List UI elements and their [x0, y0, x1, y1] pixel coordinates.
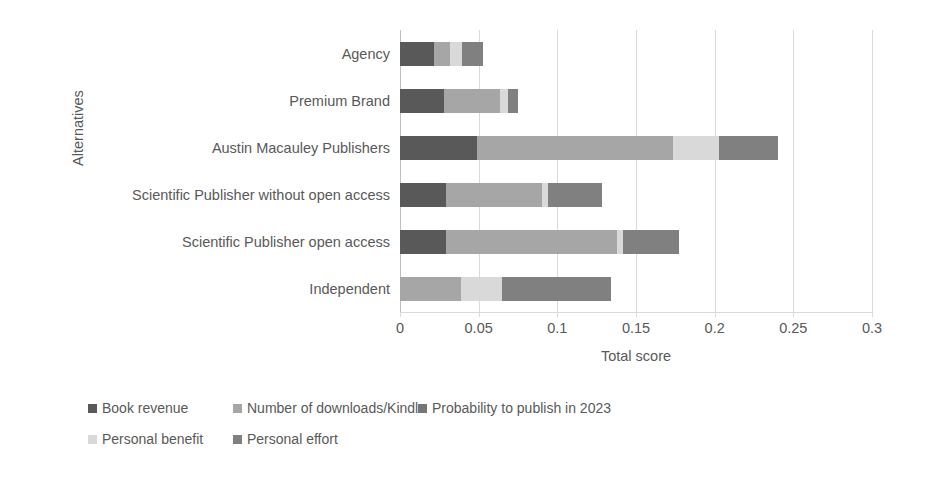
legend-item[interactable]: Number of downloads/Kindle — [233, 400, 426, 416]
category-row: Premium Brand — [400, 77, 872, 124]
x-axis-tick-label: 0 — [396, 320, 404, 336]
bar-segment[interactable] — [502, 277, 611, 301]
legend-swatch-icon — [233, 435, 242, 444]
legend-row: Personal benefitPersonal effort — [88, 431, 888, 457]
x-axis-tick — [715, 312, 716, 317]
bar-segment[interactable] — [400, 42, 434, 66]
plot-area: AgencyPremium BrandAustin Macauley Publi… — [400, 30, 872, 312]
bar-segment[interactable] — [462, 42, 482, 66]
x-axis-tick-label: 0.05 — [465, 320, 493, 336]
bar-segment[interactable] — [400, 183, 446, 207]
stacked-bar[interactable] — [400, 42, 483, 66]
x-axis-tick — [400, 312, 401, 317]
stacked-bar[interactable] — [400, 230, 679, 254]
bar-segment[interactable] — [400, 136, 477, 160]
bar-segment[interactable] — [450, 42, 462, 66]
legend-label: Book revenue — [102, 400, 188, 416]
legend-swatch-icon — [88, 435, 97, 444]
y-axis-tick-label: Independent — [309, 281, 390, 297]
x-axis-title: Total score — [400, 348, 872, 364]
bar-segment[interactable] — [461, 277, 502, 301]
y-axis-tick-label: Agency — [342, 46, 390, 62]
x-axis-tick — [793, 312, 794, 317]
x-axis-tick-label: 0.15 — [622, 320, 650, 336]
x-axis-tick — [557, 312, 558, 317]
bar-segment[interactable] — [434, 42, 451, 66]
legend-label: Probability to publish in 2023 — [432, 400, 611, 416]
legend-label: Personal effort — [247, 431, 338, 447]
stacked-bar[interactable] — [400, 183, 602, 207]
y-axis-tick-label: Scientific Publisher open access — [182, 234, 390, 250]
category-row: Agency — [400, 30, 872, 77]
bar-segment[interactable] — [446, 183, 542, 207]
y-axis-tick-label: Scientific Publisher without open access — [132, 187, 390, 203]
legend-row: Book revenueNumber of downloads/KindlePr… — [88, 400, 888, 426]
bar-segment[interactable] — [446, 230, 617, 254]
bar-segment[interactable] — [400, 89, 444, 113]
y-axis-title: Alternatives — [70, 68, 86, 188]
x-axis-tick-label: 0.2 — [705, 320, 725, 336]
legend-label: Personal benefit — [102, 431, 203, 447]
bar-segment[interactable] — [623, 230, 679, 254]
bar-segment[interactable] — [548, 183, 602, 207]
stacked-bar[interactable] — [400, 277, 611, 301]
bar-segment[interactable] — [508, 89, 518, 113]
legend-item[interactable]: Personal benefit — [88, 431, 203, 447]
category-row: Independent — [400, 265, 872, 312]
x-axis-tick — [636, 312, 637, 317]
x-axis-tick-label: 0.3 — [862, 320, 882, 336]
x-axis-tick-label: 0.25 — [779, 320, 807, 336]
y-axis-tick-label: Austin Macauley Publishers — [212, 140, 390, 156]
stacked-bar-chart: Alternatives AgencyPremium BrandAustin M… — [0, 0, 934, 495]
bar-segment[interactable] — [477, 136, 673, 160]
bar-segment[interactable] — [673, 136, 719, 160]
legend-item[interactable]: Personal effort — [233, 431, 338, 447]
stacked-bar[interactable] — [400, 136, 778, 160]
bar-segment[interactable] — [500, 89, 508, 113]
legend-item[interactable]: Book revenue — [88, 400, 188, 416]
bar-segment[interactable] — [400, 230, 446, 254]
legend-label: Number of downloads/Kindle — [247, 400, 426, 416]
category-row: Scientific Publisher open access — [400, 218, 872, 265]
y-axis-tick-label: Premium Brand — [289, 93, 390, 109]
category-row: Austin Macauley Publishers — [400, 124, 872, 171]
gridline-0_3 — [872, 30, 873, 312]
x-axis-tick — [872, 312, 873, 317]
legend-swatch-icon — [233, 404, 242, 413]
x-axis-tick — [479, 312, 480, 317]
legend-swatch-icon — [418, 404, 427, 413]
stacked-bar[interactable] — [400, 89, 518, 113]
bar-segment[interactable] — [444, 89, 500, 113]
legend-item[interactable]: Probability to publish in 2023 — [418, 400, 611, 416]
bar-segment[interactable] — [400, 277, 461, 301]
category-row: Scientific Publisher without open access — [400, 171, 872, 218]
bar-segment[interactable] — [719, 136, 778, 160]
x-axis-tick-label: 0.1 — [547, 320, 567, 336]
legend-swatch-icon — [88, 404, 97, 413]
